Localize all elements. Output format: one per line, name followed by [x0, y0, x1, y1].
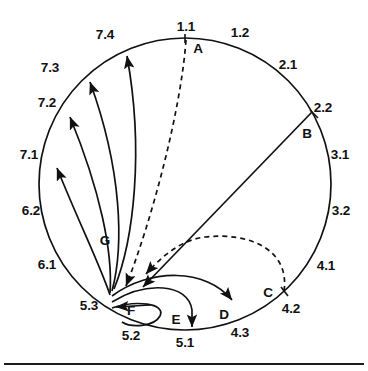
bottom-divider	[4, 363, 364, 365]
sector-label-1-2: 1.2	[231, 26, 249, 40]
edge-c-path	[146, 236, 285, 291]
sector-label-4-2: 4.2	[282, 302, 300, 316]
sector-label-7-3: 7.3	[41, 61, 59, 75]
sector-label-7-2: 7.2	[38, 96, 56, 110]
edge-d-path	[112, 275, 232, 300]
sector-label-5-1: 5.1	[176, 336, 194, 350]
sector-label-4-3: 4.3	[231, 326, 249, 340]
sector-label-3-2: 3.2	[332, 204, 350, 218]
edge-g2-path	[70, 117, 110, 293]
node-label-e: E	[172, 313, 181, 327]
node-label-c: C	[263, 286, 273, 300]
sector-label-7-4: 7.4	[96, 28, 114, 42]
node-label-a: A	[193, 42, 203, 56]
sector-label-2-1: 2.1	[279, 58, 297, 72]
edge-b-path	[143, 112, 312, 287]
outer-circle	[39, 38, 331, 330]
node-label-g: G	[100, 234, 110, 248]
edge-g1-path	[57, 168, 110, 295]
sector-label-4-1: 4.1	[317, 259, 335, 273]
sector-label-6-1: 6.1	[38, 258, 56, 272]
sector-label-2-2: 2.2	[314, 101, 332, 115]
sector-label-6-2: 6.2	[22, 204, 40, 218]
node-label-f: F	[127, 304, 135, 318]
sector-label-5-2: 5.2	[122, 329, 140, 343]
sector-label-5-3: 5.3	[80, 299, 98, 313]
sector-label-1-1: 1.1	[177, 20, 195, 34]
node-label-d: D	[219, 308, 229, 322]
diagram-figure: 1.1 1.2 2.1 2.2 3.1 3.2 4.1 4.2 4.3 5.1 …	[0, 0, 368, 371]
sector-label-7-1: 7.1	[20, 148, 38, 162]
diagram-canvas	[0, 0, 368, 371]
node-label-b: B	[302, 127, 312, 141]
sector-label-3-1: 3.1	[331, 148, 349, 162]
